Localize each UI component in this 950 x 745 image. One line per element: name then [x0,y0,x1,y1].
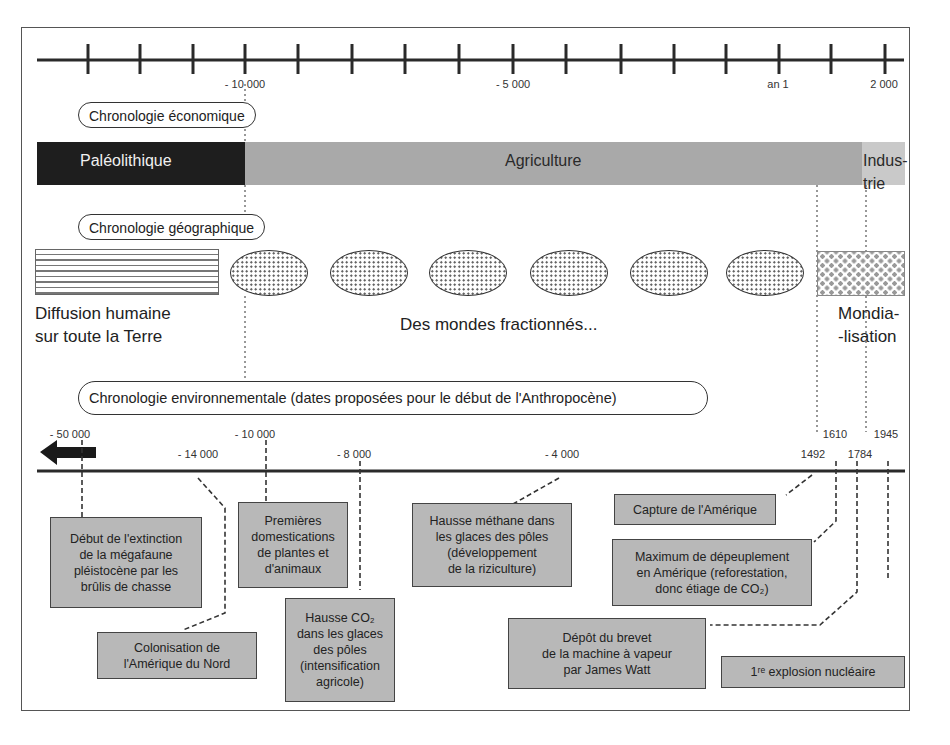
economic-chronology-title: Chronologie économique [78,102,256,128]
date-minus-4000: - 4 000 [545,448,579,460]
environmental-chronology-title: Chronologie environnementale (dates prop… [78,381,708,415]
fragmented-world-ellipse [429,250,507,296]
industry-label-line1: Indus- [863,149,907,172]
period-agriculture-label: Agriculture [505,152,581,170]
globalization-label: Mondia- -lisation [838,302,899,348]
date-minus-14000: - 14 000 [178,448,218,460]
diffusion-label: Diffusion humaine sur toute la Terre [35,302,171,348]
fragmented-world-ellipse [330,250,408,296]
diffusion-label-line1: Diffusion humaine [35,302,171,325]
period-industry-label: Indus- trie [863,149,907,195]
top-axis-label-an-1: an 1 [767,78,788,90]
period-paleolithic-label: Paléolithique [80,152,172,170]
event-capture-of-america: Capture de l'Amérique [614,494,776,525]
event-first-nuclear-explosion: 1ʳᵉ explosion nucléaire [721,656,905,688]
event-text: Hausse méthane dans les glaces des pôles… [429,513,554,577]
industry-label-line2: trie [863,172,907,195]
globalization-dotted-box [817,251,905,296]
event-james-watt-patent: Dépôt du brevet de la machine à vapeur p… [508,618,706,689]
date-1610: 1610 [823,428,847,440]
event-co2-rise: Hausse CO₂ dans les glaces des pôles (in… [285,598,395,702]
diffusion-label-line2: sur toute la Terre [35,325,171,348]
fragmented-worlds-label: Des mondes fractionnés... [400,313,597,336]
event-text: Début de l'extinction de la mégafaune pl… [70,531,182,595]
top-axis-label-minus-10000: - 10 000 [225,78,265,90]
diagram-frame [21,27,910,711]
date-1492: 1492 [801,448,825,460]
date-minus-10000: - 10 000 [235,428,275,440]
event-text: Maximum de dépeuplement en Amérique (ref… [635,549,789,597]
event-first-domestications: Premières domestications de plantes et d… [238,502,348,588]
fragmented-world-ellipse [230,250,308,296]
geographic-chronology-title: Chronologie géographique [78,214,265,240]
fragmented-world-ellipse [630,250,708,296]
event-north-america-colonization: Colonisation de l'Amérique du Nord [97,632,257,679]
event-text: Colonisation de l'Amérique du Nord [124,640,231,672]
event-text: Dépôt du brevet de la machine à vapeur p… [542,630,672,678]
event-text: Premières domestications de plantes et d… [251,513,334,577]
date-minus-50000: - 50 000 [50,428,90,440]
top-axis-label-minus-5000: - 5 000 [496,78,530,90]
event-megafauna-extinction: Début de l'extinction de la mégafaune pl… [50,517,202,608]
event-text: 1ʳᵉ explosion nucléaire [750,664,875,680]
event-depopulation-maximum: Maximum de dépeuplement en Amérique (ref… [612,539,812,606]
globalization-label-line2: -lisation [838,325,899,348]
date-1945: 1945 [874,428,898,440]
top-axis-label-2000: 2 000 [870,78,898,90]
date-minus-8000: - 8 000 [337,448,371,460]
fragmented-world-ellipse [530,250,608,296]
fragmented-world-ellipse [726,250,804,296]
event-text: Capture de l'Amérique [633,502,757,518]
diffusion-hatched-box [35,249,219,295]
globalization-label-line1: Mondia- [838,302,899,325]
event-methane-rise: Hausse méthane dans les glaces des pôles… [412,503,572,587]
event-text: Hausse CO₂ dans les glaces des pôles (in… [297,610,383,690]
date-1784: 1784 [848,448,872,460]
